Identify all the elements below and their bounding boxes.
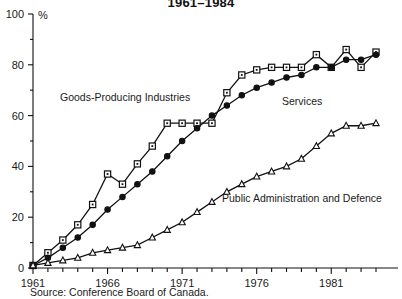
x-axis-tick-label: 1981 xyxy=(319,277,343,289)
data-point-marker xyxy=(224,103,229,108)
data-point-marker xyxy=(150,169,155,174)
data-point-marker xyxy=(75,235,80,240)
data-point-marker-center xyxy=(226,92,228,94)
data-point-marker-center xyxy=(256,69,258,71)
data-point-marker xyxy=(179,138,184,143)
y-axis-unit-label: % xyxy=(38,9,48,21)
data-point-marker-center xyxy=(271,66,273,68)
data-point-marker xyxy=(373,52,378,57)
data-point-marker-center xyxy=(77,224,79,226)
data-point-marker-center xyxy=(301,66,303,68)
data-point-marker xyxy=(358,57,363,62)
data-point-marker xyxy=(314,65,319,70)
chart-series xyxy=(30,46,379,268)
data-point-marker-center xyxy=(92,204,94,206)
chart-series-annotations: Goods-Producing IndustriesServicesPublic… xyxy=(60,91,382,204)
data-point-marker xyxy=(60,245,65,250)
data-point-marker xyxy=(373,120,379,126)
data-point-marker-center xyxy=(360,66,362,68)
data-point-marker-center xyxy=(181,122,183,124)
x-axis-tick-label: 1976 xyxy=(244,277,268,289)
data-point-marker xyxy=(194,209,200,215)
y-axis-tick-label: 80 xyxy=(12,59,24,71)
data-point-marker-center xyxy=(136,163,138,165)
chart-series-1 xyxy=(30,46,379,268)
data-point-marker xyxy=(90,222,95,227)
chart-plot-area: 020406080100 19611966197119761981 % Good… xyxy=(0,0,402,299)
data-point-marker-center xyxy=(241,74,243,76)
data-point-marker xyxy=(105,207,110,212)
data-point-marker-center xyxy=(211,122,213,124)
y-axis-tick-label: 20 xyxy=(12,211,24,223)
data-point-marker xyxy=(135,181,140,186)
data-point-marker-center xyxy=(166,122,168,124)
data-point-marker-center xyxy=(315,54,317,56)
data-point-marker xyxy=(269,80,274,85)
source-note: Source: Conference Board of Canada. xyxy=(30,286,209,298)
data-point-marker-center xyxy=(107,173,109,175)
y-axis-tick-label: 40 xyxy=(12,160,24,172)
y-axis-tick-label: 100 xyxy=(6,8,24,20)
data-point-marker xyxy=(179,219,185,225)
y-axis-tick-label: 60 xyxy=(12,110,24,122)
data-point-marker xyxy=(299,72,304,77)
data-point-marker xyxy=(120,194,125,199)
data-point-marker xyxy=(329,65,334,70)
series-label-3: Public Administration and Defence xyxy=(222,192,382,204)
data-point-marker-center xyxy=(196,122,198,124)
data-point-marker xyxy=(239,93,244,98)
series-label-1: Goods-Producing Industries xyxy=(60,91,190,103)
data-point-marker-center xyxy=(286,66,288,68)
data-point-marker xyxy=(343,57,348,62)
series-line xyxy=(33,50,376,266)
data-point-marker xyxy=(209,199,215,205)
chart-series-2 xyxy=(30,52,378,268)
data-point-marker-center xyxy=(47,252,49,254)
data-point-marker xyxy=(209,113,214,118)
data-point-marker xyxy=(165,154,170,159)
series-line xyxy=(33,55,376,266)
data-point-marker xyxy=(194,126,199,131)
data-point-marker-center xyxy=(122,183,124,185)
series-label-2: Services xyxy=(282,95,322,107)
chart-container: 1961–1984 020406080100 19611966197119761… xyxy=(0,0,402,299)
data-point-marker-center xyxy=(62,239,64,241)
y-axis-tick-labels: 020406080100 xyxy=(6,8,24,274)
data-point-marker-center xyxy=(345,49,347,51)
data-point-marker-center xyxy=(151,145,153,147)
y-axis-tick-label: 0 xyxy=(18,262,24,274)
data-point-marker xyxy=(284,75,289,80)
data-point-marker xyxy=(254,85,259,90)
